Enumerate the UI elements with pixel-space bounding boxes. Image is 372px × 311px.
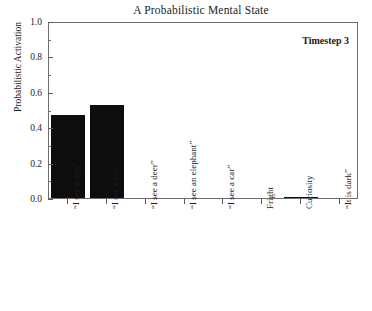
y-tick-minor-mark bbox=[48, 40, 51, 41]
y-tick-label: 0.0 bbox=[30, 194, 42, 204]
x-tick-mark bbox=[300, 199, 301, 204]
y-tick-minor-mark bbox=[48, 75, 51, 76]
y-tick-minor-mark bbox=[48, 181, 51, 182]
plot-frame: Timestep 3 bbox=[48, 22, 358, 199]
x-tick-label: “I see a deer” bbox=[149, 160, 159, 209]
x-tick-mark bbox=[339, 199, 340, 204]
y-tick-mark bbox=[48, 93, 53, 94]
x-tick-label: Curiosity bbox=[304, 175, 314, 209]
y-tick-minor-mark bbox=[48, 146, 51, 147]
x-axis: “I see a dog”“I see a cat”“I see a deer”… bbox=[48, 199, 358, 311]
y-tick-label: 1.0 bbox=[30, 17, 42, 27]
x-tick-label: Fright bbox=[265, 187, 275, 209]
x-tick-label: “I see an elephant” bbox=[188, 141, 198, 209]
x-tick-mark bbox=[184, 199, 185, 204]
y-tick-label: 0.4 bbox=[30, 123, 42, 133]
y-tick-label: 0.2 bbox=[30, 159, 42, 169]
x-tick-label: “I see a car” bbox=[226, 165, 236, 209]
y-axis: Probabilistic Activation 0.00.20.40.60.8… bbox=[0, 0, 46, 311]
chart-figure: A Probabilistic Mental State Probabilist… bbox=[0, 0, 372, 311]
x-tick-mark bbox=[67, 199, 68, 204]
x-tick-mark bbox=[145, 199, 146, 204]
y-tick-mark bbox=[48, 164, 53, 165]
plot-area bbox=[49, 23, 357, 198]
y-axis-title: Probabilistic Activation bbox=[13, 0, 23, 137]
chart-title: A Probabilistic Mental State bbox=[44, 4, 358, 16]
x-tick-mark bbox=[222, 199, 223, 204]
x-tick-mark bbox=[261, 199, 262, 204]
y-tick-mark bbox=[48, 128, 53, 129]
y-tick-mark bbox=[48, 22, 53, 23]
y-tick-label: 0.6 bbox=[30, 88, 42, 98]
x-tick-label: “I see a dog” bbox=[71, 162, 81, 209]
x-tick-label: “I see a cat” bbox=[110, 165, 120, 209]
y-tick-mark bbox=[48, 57, 53, 58]
y-tick-minor-mark bbox=[48, 111, 51, 112]
y-tick-label: 0.8 bbox=[30, 52, 42, 62]
y-tick-mark bbox=[48, 199, 53, 200]
x-tick-mark bbox=[106, 199, 107, 204]
x-tick-label: “It is dark” bbox=[343, 169, 353, 209]
